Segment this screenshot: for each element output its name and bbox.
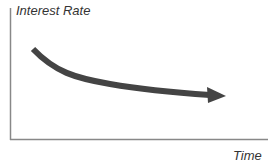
x-axis-label: Time [233, 148, 262, 163]
rate-curve [33, 49, 210, 95]
arrow-head-icon [207, 87, 226, 103]
interest-rate-diagram: Interest Rate Time [0, 0, 275, 165]
y-axis-label: Interest Rate [16, 3, 90, 18]
diagram-canvas [0, 0, 275, 165]
